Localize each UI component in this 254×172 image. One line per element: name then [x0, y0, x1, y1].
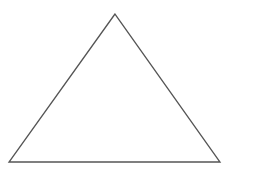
triangle-diagram [0, 0, 254, 172]
triangle-shape [9, 14, 220, 162]
diagram-canvas [0, 0, 254, 172]
